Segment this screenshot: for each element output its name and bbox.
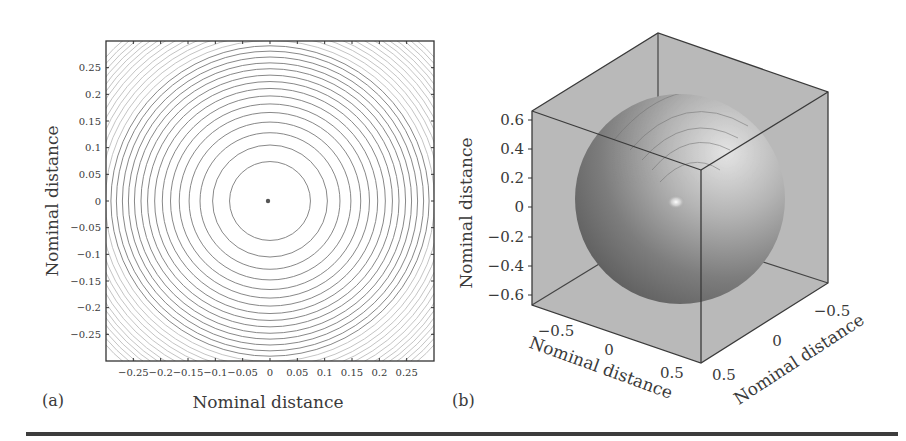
panel-label-a: (a) — [42, 391, 64, 410]
x-tick-label: −0.15 — [173, 367, 204, 378]
panel-a-contour-plot: −0.25−0.2−0.15−0.1−0.0500.050.10.150.20.… — [0, 0, 450, 441]
y-tick-label: −0.1 — [77, 249, 101, 260]
y-tick-label: 0.15 — [79, 116, 101, 127]
x-tick-label: 0.05 — [286, 367, 308, 378]
contour-plot-svg: −0.25−0.2−0.15−0.1−0.0500.050.10.150.20.… — [0, 0, 450, 441]
y-tick-label: −0.2 — [77, 302, 101, 313]
x-tick-label: −0.25 — [118, 367, 149, 378]
x-tick-label: −0.2 — [149, 367, 173, 378]
y-tick-label: 0.2 — [85, 89, 101, 100]
x-tick-label: 0 — [604, 341, 614, 359]
y-tick-label: 0.25 — [79, 62, 101, 73]
z-tick-label: 0.4 — [500, 140, 524, 158]
y-tick-label: 0 — [772, 332, 782, 350]
y-tick-label: 0.5 — [712, 366, 736, 384]
x-axis-label: Nominal distance — [192, 392, 343, 412]
x-tick-label: 0.15 — [341, 367, 363, 378]
panel-label-b: (b) — [452, 391, 475, 410]
x-tick-label: −0.05 — [227, 367, 258, 378]
sphere-highlight — [667, 195, 685, 209]
z-tick-label: −0.2 — [488, 228, 524, 246]
z-tick-label: 0.2 — [500, 169, 524, 187]
x-tick-label: 0.2 — [371, 367, 387, 378]
y-axis-label: Nominal distance — [42, 125, 62, 276]
y-tick-label: −0.15 — [70, 276, 101, 287]
y-tick-label: 0 — [95, 196, 101, 207]
3d-plot-svg: 0.60.40.20−0.2−0.4−0.6 −0.5 0 0.5 0.5 0 … — [450, 0, 906, 441]
x-tick-label: −0.1 — [203, 367, 227, 378]
x-tick-label: 0.1 — [317, 367, 333, 378]
panel-b-3d-plot: 0.60.40.20−0.2−0.4−0.6 −0.5 0 0.5 0.5 0 … — [450, 0, 906, 441]
figure-bottom-rule — [26, 432, 898, 436]
z-axis-label: Nominal distance — [456, 137, 476, 288]
y-tick-label: −0.25 — [70, 329, 101, 340]
y-tick-label: 0.1 — [85, 142, 101, 153]
center-point — [266, 199, 270, 203]
x-tick-label: 0.25 — [396, 367, 418, 378]
z-tick-label: −0.4 — [488, 257, 524, 275]
z-axis-ticks: 0.60.40.20−0.2−0.4−0.6 — [488, 111, 532, 304]
x-tick-labels: −0.25−0.2−0.15−0.1−0.0500.050.10.150.20.… — [118, 367, 418, 378]
y-tick-labels: 0.250.20.150.10.050−0.05−0.1−0.15−0.2−0.… — [70, 62, 101, 340]
z-tick-label: 0.6 — [500, 111, 524, 129]
x-tick-label: 0 — [267, 367, 273, 378]
y-tick-label: −0.05 — [70, 222, 101, 233]
z-tick-label: −0.6 — [488, 286, 524, 304]
z-tick-label: 0 — [514, 198, 524, 216]
y-tick-label: 0.05 — [79, 169, 101, 180]
